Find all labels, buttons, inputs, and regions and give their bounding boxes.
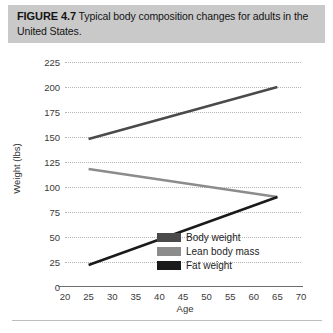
x-tick-label: 40 — [154, 291, 165, 302]
y-tick-label: 225 — [44, 57, 60, 68]
y-tick-label: 175 — [44, 107, 60, 118]
y-tick-label: 50 — [49, 232, 60, 243]
legend-swatch-icon — [157, 247, 181, 256]
y-tick-label: 200 — [44, 82, 60, 93]
series-line — [89, 87, 278, 139]
y-tick-label: 150 — [44, 132, 60, 143]
x-tick-label: 20 — [60, 291, 71, 302]
figure-container: FIGURE 4.7 Typical body composition chan… — [0, 0, 333, 333]
x-tick-label: 55 — [225, 291, 236, 302]
y-tick-label: 25 — [49, 257, 60, 268]
legend-label: Body weight — [186, 232, 240, 243]
x-tick-label: 30 — [107, 291, 118, 302]
x-axis-title: Age — [60, 303, 310, 314]
y-tick-label: 100 — [44, 182, 60, 193]
x-tick-label: 50 — [201, 291, 212, 302]
y-tick-label: 75 — [49, 207, 60, 218]
legend-label: Fat weight — [186, 260, 232, 271]
legend-label: Lean body mass — [186, 246, 259, 257]
x-tick-label: 60 — [249, 291, 260, 302]
y-axis-title: Weight (lbs) — [11, 124, 22, 214]
legend-item[interactable]: Lean body mass — [157, 245, 259, 258]
x-tick-label: 25 — [83, 291, 94, 302]
bottom-divider — [12, 320, 322, 321]
chart-area: Weight (lbs) Age 02550751001251501752002… — [0, 45, 333, 333]
chart-legend: Body weightLean body massFat weight — [157, 231, 259, 273]
legend-item[interactable]: Body weight — [157, 231, 259, 244]
figure-number-label: FIGURE 4.7 — [17, 10, 76, 22]
x-tick-label: 45 — [178, 291, 189, 302]
x-tick-label: 70 — [296, 291, 307, 302]
y-tick-label: 125 — [44, 157, 60, 168]
figure-caption-band: FIGURE 4.7 Typical body composition chan… — [8, 5, 325, 43]
legend-item[interactable]: Fat weight — [157, 259, 259, 272]
legend-swatch-icon — [157, 261, 181, 270]
legend-swatch-icon — [157, 233, 181, 242]
x-tick-label: 35 — [131, 291, 142, 302]
x-tick-label: 65 — [272, 291, 283, 302]
series-line — [89, 169, 278, 197]
figure-caption: FIGURE 4.7 Typical body composition chan… — [17, 9, 317, 38]
